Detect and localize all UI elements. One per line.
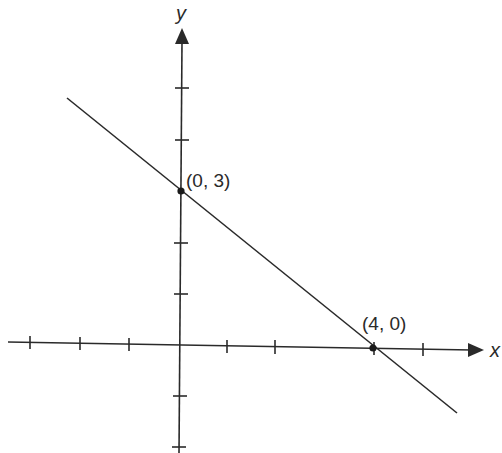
plotted-line xyxy=(67,98,457,413)
y-axis-arrow-icon xyxy=(175,28,189,44)
y-axis-label: y xyxy=(174,2,187,24)
x-axis-ticks xyxy=(30,336,423,356)
x-axis xyxy=(8,336,484,357)
x-axis-label: x xyxy=(489,339,501,361)
point-label-4-0: (4, 0) xyxy=(362,313,406,334)
x-axis-arrow-icon xyxy=(468,343,484,357)
point-4-0 xyxy=(369,344,376,351)
point-0-3 xyxy=(177,187,184,194)
y-axis xyxy=(172,28,189,453)
coordinate-plane: (0, 3) (4, 0) y x xyxy=(0,0,502,453)
point-label-0-3: (0, 3) xyxy=(186,170,230,191)
